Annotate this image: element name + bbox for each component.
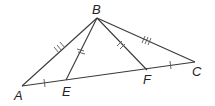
tick-marks-be [77,49,85,54]
segment-be [66,18,97,80]
tick-marks-bf [117,41,125,49]
label-c: C [192,64,202,79]
label-a: A [13,88,23,103]
tick-mark-fc [170,61,171,69]
segment-bf [97,18,147,70]
triangle-diagram: A B C E F [0,0,215,106]
label-f: F [143,72,152,87]
segment-ab [22,18,97,86]
tick-marks-bc [142,36,151,45]
label-b: B [92,2,101,17]
segment-bc [97,18,195,62]
label-e: E [62,84,71,99]
tick-mark-ae [44,79,45,87]
segment-ac [22,62,195,86]
